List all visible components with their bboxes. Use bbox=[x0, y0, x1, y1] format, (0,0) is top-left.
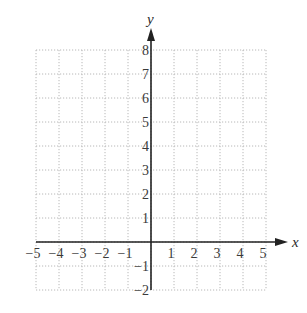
y-tick-label: 4 bbox=[142, 139, 149, 154]
x-tick-label: −1 bbox=[118, 246, 133, 261]
x-tick-label: −4 bbox=[49, 246, 64, 261]
x-tick-label: 4 bbox=[237, 246, 244, 261]
x-tick-label: −2 bbox=[95, 246, 110, 261]
y-tick-label: 1 bbox=[142, 211, 149, 226]
y-tick-label: 2 bbox=[142, 187, 149, 202]
x-axis-arrow-icon bbox=[275, 238, 288, 246]
y-tick-labels: −2−112345678 bbox=[134, 43, 149, 298]
y-tick-label: 5 bbox=[142, 115, 149, 130]
y-tick-label: −1 bbox=[134, 259, 149, 274]
coordinate-plane: −5−4−3−2−112345 −2−112345678 x y bbox=[0, 0, 307, 313]
y-tick-label: −2 bbox=[134, 283, 149, 298]
x-tick-label: −5 bbox=[26, 246, 41, 261]
x-axis-label: x bbox=[291, 234, 299, 250]
y-axis-label: y bbox=[145, 11, 154, 27]
y-tick-label: 3 bbox=[142, 163, 149, 178]
x-tick-label: −3 bbox=[72, 246, 87, 261]
y-axis-arrow-icon bbox=[147, 28, 155, 41]
x-tick-label: 2 bbox=[191, 246, 198, 261]
y-tick-label: 8 bbox=[142, 43, 149, 58]
y-tick-label: 7 bbox=[142, 67, 149, 82]
x-tick-label: 3 bbox=[214, 246, 221, 261]
y-tick-label: 6 bbox=[142, 91, 149, 106]
x-tick-label: 5 bbox=[260, 246, 267, 261]
x-tick-label: 1 bbox=[168, 246, 175, 261]
